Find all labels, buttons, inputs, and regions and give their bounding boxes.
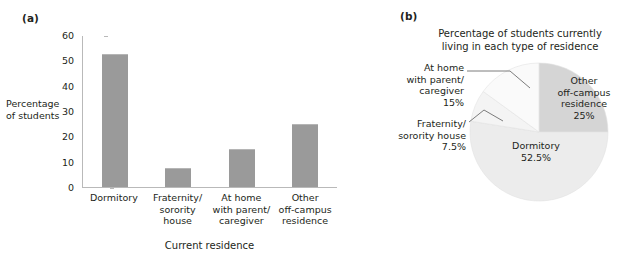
x-category-4: Otheroff-campusresidence bbox=[274, 192, 336, 227]
x-category-1: Dormitory bbox=[83, 192, 145, 227]
x-category-line: Other bbox=[274, 192, 336, 204]
x-category-line: house bbox=[147, 215, 209, 227]
x-category-line: At home bbox=[210, 192, 272, 204]
panel-b-pie-chart: (b) Percentage of students currently liv… bbox=[390, 0, 629, 260]
y-tick-30: 30 bbox=[62, 106, 74, 118]
bar-2 bbox=[165, 168, 191, 187]
x-category-line: Dormitory bbox=[83, 192, 145, 204]
bar-3 bbox=[229, 149, 255, 187]
pie-label-fraternity: Fraternity/ sorority house 7.5% bbox=[390, 118, 466, 153]
pie-label-fraternity-line1: Fraternity/ bbox=[390, 118, 466, 130]
x-axis-title: Current residence bbox=[82, 240, 337, 251]
y-tick-label: 10 bbox=[62, 157, 74, 168]
x-axis-category-labels: DormitoryFraternity/sororityhouseAt home… bbox=[82, 192, 337, 227]
y-tick-50: 50 bbox=[62, 55, 74, 67]
y-tick-40: 40 bbox=[62, 81, 74, 93]
y-tick-label: 40 bbox=[62, 81, 74, 92]
x-category-line: Fraternity/ bbox=[147, 192, 209, 204]
pie-label-at-home-line2: with parent/ bbox=[392, 74, 464, 86]
pie-label-at-home-pct: 15% bbox=[392, 97, 464, 109]
pie-label-at-home: At home with parent/ caregiver 15% bbox=[392, 62, 464, 108]
y-tick-mark bbox=[110, 188, 114, 189]
x-category-line: with parent/ bbox=[210, 204, 272, 216]
y-tick-label: 0 bbox=[68, 182, 74, 193]
bar-series bbox=[83, 36, 337, 187]
y-tick-10: 10 bbox=[62, 157, 74, 169]
bar-4 bbox=[292, 124, 318, 187]
pie-label-fraternity-line2: sorority house bbox=[390, 130, 466, 142]
panel-a-bar-chart: (a) Percentage of students 6050403020100… bbox=[0, 0, 390, 260]
x-category-line: caregiver bbox=[210, 215, 272, 227]
y-tick-label: 30 bbox=[62, 106, 74, 117]
y-tick-label: 60 bbox=[62, 30, 74, 41]
y-tick-label: 50 bbox=[62, 55, 74, 66]
pie-label-at-home-line3: caregiver bbox=[392, 85, 464, 97]
x-category-3: At homewith parent/caregiver bbox=[210, 192, 272, 227]
y-tick-label: 20 bbox=[62, 131, 74, 142]
panel-a-label: (a) bbox=[22, 12, 39, 24]
x-category-line: sorority bbox=[147, 204, 209, 216]
y-tick-0: 0 bbox=[68, 182, 74, 194]
x-category-2: Fraternity/sororityhouse bbox=[147, 192, 209, 227]
y-tick-60: 60 bbox=[62, 30, 74, 42]
bar-1 bbox=[102, 54, 128, 187]
x-category-line: off-campus bbox=[274, 204, 336, 216]
bar-plot-area bbox=[82, 36, 337, 188]
y-tick-20: 20 bbox=[62, 131, 74, 143]
pie-label-fraternity-pct: 7.5% bbox=[390, 141, 466, 153]
y-axis-ticks: 6050403020100 bbox=[40, 29, 80, 195]
pie-label-at-home-line1: At home bbox=[392, 62, 464, 74]
x-category-line: residence bbox=[274, 215, 336, 227]
